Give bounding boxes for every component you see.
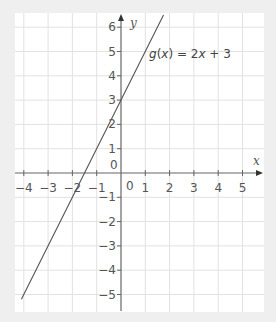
y-tick-label: −1: [98, 190, 116, 204]
origin-label-upper: 0: [110, 158, 118, 172]
x-tick-label: 4: [214, 181, 222, 195]
y-tick-label: −3: [98, 239, 116, 253]
y-tick-label: 1: [108, 142, 116, 156]
y-tick-label: −2: [98, 215, 116, 229]
x-tick-label: −2: [64, 181, 82, 195]
y-tick-label: 5: [108, 45, 116, 59]
y-axis-label: y: [129, 16, 137, 30]
y-tick-label: 4: [108, 69, 116, 83]
x-tick-label: 5: [239, 181, 247, 195]
x-tick-label: 2: [166, 181, 174, 195]
x-tick-label: 1: [141, 181, 149, 195]
origin-label-lower: 0: [126, 179, 134, 193]
y-tick-label: 2: [108, 117, 116, 131]
y-tick-label: −5: [98, 288, 116, 302]
function-label: g(x) = 2x + 3: [149, 47, 231, 61]
y-tick-label: 6: [108, 20, 116, 34]
x-axis-label: x: [253, 154, 260, 168]
y-tick-label: −4: [98, 263, 116, 277]
function-graph: −4−3−2−112345−5−4−3−2−1123456 x y 0 0 g(…: [0, 0, 276, 322]
y-tick-label: 3: [108, 93, 116, 107]
x-tick-label: 3: [190, 181, 198, 195]
x-tick-label: −3: [39, 181, 57, 195]
x-tick-label: −4: [15, 181, 33, 195]
